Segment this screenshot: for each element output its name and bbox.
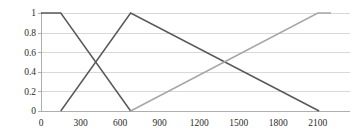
gridlines-group xyxy=(41,14,350,112)
y-tick-label: 1 xyxy=(31,8,36,18)
x-tick-label: 0 xyxy=(39,118,44,128)
x-tick-label: 600 xyxy=(113,118,128,128)
y-tick-label: 0.8 xyxy=(24,28,36,38)
series-group xyxy=(41,13,331,111)
line-chart: 00.20.40.60.81 0300600900120015001800210… xyxy=(0,0,361,131)
y-tick-label: 0.4 xyxy=(24,67,36,77)
x-tick-label: 1800 xyxy=(269,118,288,128)
x-tick-label: 900 xyxy=(153,118,168,128)
chart-container: 00.20.40.60.81 0300600900120015001800210… xyxy=(0,0,361,131)
x-tick-label: 2100 xyxy=(308,118,327,128)
x-tick-label: 300 xyxy=(73,118,88,128)
y-tick-label: 0.6 xyxy=(24,48,36,58)
y-tick-label: 0.2 xyxy=(24,87,36,97)
x-tick-labels-group: 03006009001200150018002100 xyxy=(39,118,328,128)
series-line-high xyxy=(131,13,331,111)
x-tick-label: 1200 xyxy=(190,118,209,128)
x-tick-label: 1500 xyxy=(229,118,248,128)
series-line-medium xyxy=(61,13,319,111)
y-tick-label: 0 xyxy=(31,106,36,116)
y-tick-labels-group: 00.20.40.60.81 xyxy=(24,8,41,116)
series-line-low xyxy=(41,13,131,111)
